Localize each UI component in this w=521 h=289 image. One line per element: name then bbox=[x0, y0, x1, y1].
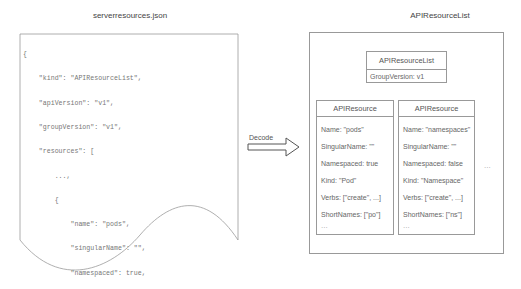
resource-field-verbs: Verbs: ["create", ...] bbox=[399, 189, 474, 206]
right-arrow-icon bbox=[246, 136, 302, 158]
api-resource-box-pods: APIResource Name: "pods" SingularName: "… bbox=[316, 100, 394, 235]
code-line: ..., bbox=[23, 173, 209, 181]
code-line: "resources": [ bbox=[23, 148, 209, 156]
resource-field-short-names: ShortNames: ["po"] bbox=[317, 206, 393, 223]
resource-field-singular-name: SingularName: "" bbox=[399, 138, 474, 155]
list-box-header: APIResourceList bbox=[367, 52, 446, 70]
api-resource-list-box: APIResourceList GroupVersion: v1 bbox=[366, 51, 447, 83]
group-version-field: GroupVersion: v1 bbox=[367, 70, 446, 83]
code-line: "namespaced": true, bbox=[23, 270, 209, 278]
code-line: "apiVersion": "v1", bbox=[23, 100, 209, 108]
code-line: "groupVersion": "v1", bbox=[23, 124, 209, 132]
code-line: "kind": "APIResourceList", bbox=[23, 75, 209, 83]
resource-field-name: Name: "namespaces" bbox=[399, 121, 474, 138]
code-line: "singularName": "", bbox=[23, 245, 209, 253]
resource-field-singular-name: SingularName: "" bbox=[317, 138, 393, 155]
resource-field-namespaced: Namespaced: true bbox=[317, 155, 393, 172]
json-code-block: { "kind": "APIResourceList", "apiVersion… bbox=[23, 35, 209, 289]
resource-field-kind: Kind: "Namespace" bbox=[399, 172, 474, 189]
struct-diagram-title: APIResourceList bbox=[350, 11, 521, 20]
resource-field-verbs: Verbs: ["create", ...] bbox=[317, 189, 393, 206]
resource-field-namespaced: Namespaced: false bbox=[399, 155, 474, 172]
resource-more: ... bbox=[399, 223, 474, 229]
code-line: { bbox=[23, 197, 209, 205]
resource-field-name: Name: "pods" bbox=[317, 121, 393, 138]
more-resources-ellipsis: ... bbox=[484, 161, 491, 170]
resource-header: APIResource bbox=[317, 101, 393, 117]
code-line: "name": "pods", bbox=[23, 221, 209, 229]
resource-more: ... bbox=[317, 223, 393, 229]
resource-field-short-names: ShortNames: ["ns"] bbox=[399, 206, 474, 223]
code-line: { bbox=[23, 51, 209, 59]
resource-header: APIResource bbox=[399, 101, 474, 117]
resource-field-kind: Kind: "Pod" bbox=[317, 172, 393, 189]
api-resource-box-namespaces: APIResource Name: "namespaces" SingularN… bbox=[398, 100, 475, 235]
